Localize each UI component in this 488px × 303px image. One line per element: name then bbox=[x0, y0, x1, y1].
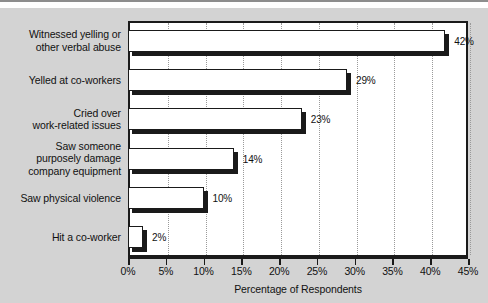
gridline-45 bbox=[470, 23, 471, 255]
category-label: Yelled at co-workers bbox=[0, 74, 121, 87]
x-tick-label: 20% bbox=[269, 265, 289, 277]
bar[interactable] bbox=[128, 148, 234, 170]
bar-row: 29% bbox=[128, 69, 468, 91]
bar-row: 2% bbox=[128, 226, 468, 248]
scan-edge-line bbox=[0, 0, 488, 2]
category-label-line: Saw physical violence bbox=[0, 192, 121, 205]
category-label-line: other verbal abuse bbox=[0, 41, 121, 54]
category-label: Witnessed yelling orother verbal abuse bbox=[0, 28, 121, 53]
bar[interactable] bbox=[128, 69, 347, 91]
bar-row: 14% bbox=[128, 148, 468, 170]
category-label-line: Witnessed yelling or bbox=[0, 28, 121, 41]
x-tick-label: 5% bbox=[158, 265, 173, 277]
category-label-line: Saw someone bbox=[0, 140, 121, 153]
x-tick-label: 0% bbox=[121, 265, 136, 277]
category-axis-labels: Witnessed yelling orother verbal abuseYe… bbox=[0, 21, 121, 257]
category-label-line: work-related issues bbox=[0, 119, 121, 132]
bars-layer: 42%29%23%14%10%2% bbox=[128, 21, 468, 257]
bar-value-label: 29% bbox=[356, 75, 375, 86]
category-label: Hit a co-worker bbox=[0, 231, 121, 244]
category-label: Saw physical violence bbox=[0, 192, 121, 205]
category-label-line: purposely damage bbox=[0, 152, 121, 165]
x-tick-label: 30% bbox=[344, 265, 364, 277]
category-label-line: Hit a co-worker bbox=[0, 231, 121, 244]
x-tick-label: 10% bbox=[193, 265, 213, 277]
x-tick-label: 25% bbox=[307, 265, 327, 277]
bar-value-label: 14% bbox=[243, 153, 262, 164]
bar-chart-figure: 42%29%23%14%10%2% Witnessed yelling orot… bbox=[0, 0, 488, 303]
bar[interactable] bbox=[128, 226, 143, 248]
bar-row: 42% bbox=[128, 30, 468, 52]
x-axis-title: Percentage of Respondents bbox=[128, 283, 468, 295]
category-label: Cried overwork-related issues bbox=[0, 107, 121, 132]
x-tick-label: 15% bbox=[231, 265, 251, 277]
bar-row: 10% bbox=[128, 187, 468, 209]
x-axis-tick-labels: 0%5%10%15%20%25%30%35%40%45% bbox=[128, 265, 468, 279]
bar[interactable] bbox=[128, 108, 302, 130]
x-tick-label: 45% bbox=[458, 265, 478, 277]
bar-value-label: 2% bbox=[152, 232, 166, 243]
bar[interactable] bbox=[128, 187, 204, 209]
category-label: Saw someonepurposely damagecompany equip… bbox=[0, 140, 121, 178]
bar-value-label: 10% bbox=[213, 193, 232, 204]
bar-value-label: 42% bbox=[454, 35, 473, 46]
x-tick-label: 35% bbox=[382, 265, 402, 277]
category-label-line: company equipment bbox=[0, 165, 121, 178]
bar-value-label: 23% bbox=[311, 114, 330, 125]
category-label-line: Cried over bbox=[0, 107, 121, 120]
category-label-line: Yelled at co-workers bbox=[0, 74, 121, 87]
bar[interactable] bbox=[128, 30, 445, 52]
x-tick-label: 40% bbox=[420, 265, 440, 277]
bar-row: 23% bbox=[128, 108, 468, 130]
